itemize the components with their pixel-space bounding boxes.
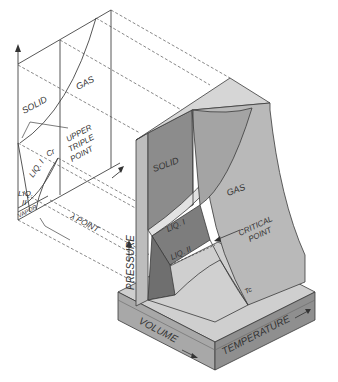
pt-solid-label: SOLID [20, 94, 49, 116]
pt-liq2-label-1: LIQ. [18, 189, 33, 198]
phase-diagram-figure: SOLID GAS UPPER TRIPLE POINT Cr LIQ. I L… [0, 0, 338, 382]
lambda-point-leader [40, 218, 70, 240]
pt-critical-label: Cr [45, 147, 57, 159]
pt-temperature-arrow-icon [112, 166, 124, 178]
pt-projection-frame [18, 10, 120, 220]
pt-liq2-label-2: II [22, 198, 27, 207]
pt-pressure-arrow-icon [15, 44, 21, 64]
pt-gas-label: GAS [74, 74, 95, 92]
pt-vapor-label: VAPOR [17, 204, 39, 219]
pt-liq1-label: LIQ. I [27, 157, 46, 179]
lambda-point-label: λ POINT [68, 211, 101, 234]
pvt-surface [136, 78, 305, 322]
triple-point-leader [22, 122, 68, 138]
pressure-axis-label: PRESSURE [125, 235, 136, 290]
diagram-svg: SOLID GAS UPPER TRIPLE POINT Cr LIQ. I L… [0, 0, 338, 382]
